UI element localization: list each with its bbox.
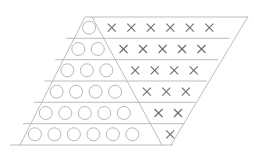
circle-icon <box>67 128 80 141</box>
cross-icon <box>120 45 128 53</box>
circle-icon <box>98 107 111 120</box>
cross-icon <box>198 45 206 53</box>
cross-icon <box>143 88 151 96</box>
cross-icon <box>139 45 147 53</box>
circle-icon <box>91 43 104 56</box>
cross-icon <box>151 66 159 74</box>
cross-icon <box>174 109 182 117</box>
cross-icon <box>166 24 174 32</box>
circle-icon <box>50 85 63 98</box>
cross-icon <box>159 45 167 53</box>
circle-icon <box>28 128 41 141</box>
cross-icon <box>147 24 155 32</box>
circle-icon <box>39 107 52 120</box>
circle-icon <box>78 107 91 120</box>
cross-icon <box>205 24 213 32</box>
circle-icon <box>48 128 61 141</box>
circle-icon <box>89 85 102 98</box>
cross-icon <box>108 24 116 32</box>
cross-icon <box>186 24 194 32</box>
parallelogram-frame <box>10 17 248 146</box>
circle-icon <box>126 128 139 141</box>
circle-icon <box>100 64 113 77</box>
cross-icon <box>182 88 190 96</box>
cross-icon <box>178 45 186 53</box>
cross-icon <box>170 66 178 74</box>
circle-icon <box>117 107 130 120</box>
cross-icon <box>155 109 163 117</box>
circle-icon <box>70 85 83 98</box>
circle-icon <box>59 107 72 120</box>
circles-crosses-diagram <box>0 0 254 157</box>
cross-icon <box>127 24 135 32</box>
circle-icon <box>80 64 93 77</box>
cross-icon <box>190 66 198 74</box>
circle-icon <box>87 128 100 141</box>
circle-icon <box>109 85 122 98</box>
circle-icon <box>72 43 85 56</box>
cross-icon <box>162 88 170 96</box>
circle-icon <box>106 128 119 141</box>
cross-icon <box>166 130 174 138</box>
circle-icon <box>61 64 74 77</box>
cross-icon <box>131 66 139 74</box>
circle-icon <box>83 21 96 34</box>
